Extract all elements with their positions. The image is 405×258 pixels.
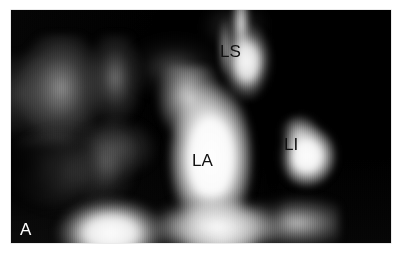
annotation-label-li: LI bbox=[284, 136, 298, 153]
annotation-label-ls: LS bbox=[220, 43, 241, 60]
annotation-label-la: LA bbox=[192, 152, 213, 169]
medical-scan-image: LS LA LI A bbox=[11, 10, 391, 243]
panel-letter-label: A bbox=[20, 221, 31, 238]
scan-noise-texture bbox=[11, 10, 391, 243]
figure-panel: LS LA LI A bbox=[0, 0, 405, 258]
